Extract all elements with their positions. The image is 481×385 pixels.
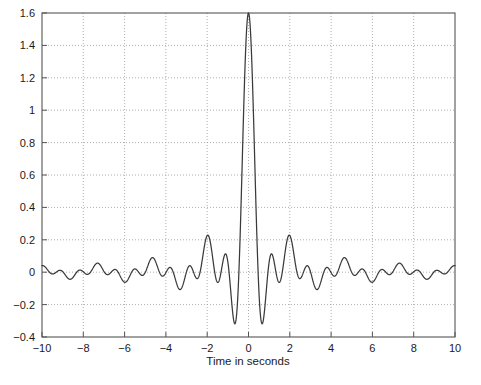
x-tick-label: −2	[201, 342, 214, 354]
x-tick-label: −4	[160, 342, 173, 354]
y-tick-label: 0	[29, 266, 35, 278]
y-tick-label: 1.2	[20, 72, 35, 84]
x-tick-label: 8	[411, 342, 417, 354]
x-tick-label: −10	[33, 342, 52, 354]
x-tick-label: −6	[118, 342, 131, 354]
y-tick-label: 0.8	[20, 137, 35, 149]
y-tick-label: 1	[29, 104, 35, 116]
sinc-waveform-figure: −10−8−6−4−20246810 −0.4−0.200.20.40.60.8…	[0, 0, 481, 385]
figure-background	[0, 0, 481, 385]
y-tick-label: −0.2	[13, 299, 35, 311]
y-tick-label: 0.6	[20, 169, 35, 181]
x-tick-label: 0	[245, 342, 251, 354]
x-tick-label: 6	[369, 342, 375, 354]
x-tick-label: 2	[287, 342, 293, 354]
x-tick-label: −8	[77, 342, 90, 354]
x-tick-label: 10	[449, 342, 461, 354]
y-tick-label: 1.6	[20, 7, 35, 19]
y-tick-label: 1.4	[20, 39, 35, 51]
y-tick-label: 0.4	[20, 201, 35, 213]
chart-page: −10−8−6−4−20246810 −0.4−0.200.20.40.60.8…	[0, 0, 481, 385]
x-axis-title: Time in seconds	[206, 355, 290, 367]
x-tick-label: 4	[328, 342, 334, 354]
y-tick-label: 0.2	[20, 234, 35, 246]
y-tick-label: −0.4	[13, 331, 35, 343]
